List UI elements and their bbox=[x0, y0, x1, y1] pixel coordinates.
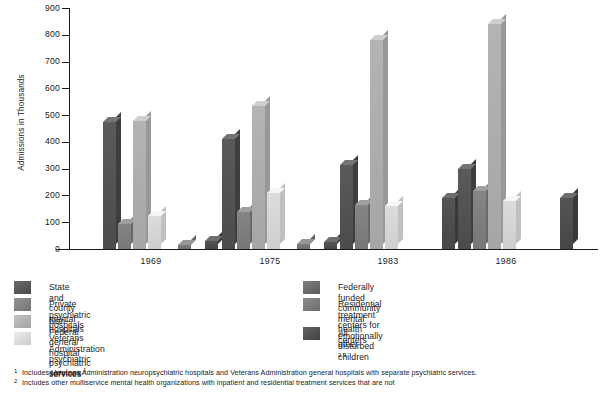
bar bbox=[458, 169, 471, 249]
y-axis-tick-mark bbox=[62, 142, 69, 143]
footnote-marker: 1 bbox=[14, 367, 17, 376]
footnote-marker: 2 bbox=[14, 377, 17, 386]
bar bbox=[340, 165, 353, 249]
legend-swatch bbox=[14, 332, 31, 345]
bar bbox=[133, 121, 146, 249]
legend-swatch bbox=[303, 298, 320, 311]
footnote-text: Includes other multiservice mental healt… bbox=[22, 378, 395, 387]
bar-face bbox=[148, 216, 161, 249]
legend-footnote-marker: 2,3 bbox=[338, 352, 346, 358]
bar bbox=[503, 201, 516, 249]
bar bbox=[252, 106, 265, 249]
bar-face bbox=[458, 169, 471, 249]
bar bbox=[560, 198, 573, 249]
legend-label: All other 2,3 bbox=[338, 327, 358, 363]
bar bbox=[103, 122, 116, 249]
y-axis-tick-label: 800 bbox=[26, 30, 60, 39]
bar-group bbox=[458, 0, 575, 278]
y-axis-tick-mark bbox=[62, 35, 69, 36]
y-axis-tick-label: 400 bbox=[26, 137, 60, 146]
bar-face bbox=[385, 206, 398, 249]
y-axis-tick-label: 600 bbox=[26, 84, 60, 93]
bar bbox=[355, 205, 368, 249]
bar bbox=[267, 193, 280, 249]
bar bbox=[118, 224, 131, 249]
legend-swatch bbox=[14, 315, 31, 328]
y-axis-tick-label: 700 bbox=[26, 57, 60, 66]
bar-face bbox=[222, 139, 235, 249]
y-axis-tick-label: 100 bbox=[26, 218, 60, 227]
y-axis-tick-mark bbox=[62, 88, 69, 89]
y-axis-tick-mark bbox=[62, 195, 69, 196]
x-axis-label-1986: 1986 bbox=[476, 256, 536, 266]
bar bbox=[297, 244, 310, 249]
bar-face bbox=[560, 198, 573, 249]
bar bbox=[222, 139, 235, 249]
y-axis-tick-label: 900 bbox=[26, 4, 60, 13]
y-axis-tick-label: 200 bbox=[26, 191, 60, 200]
bar bbox=[205, 241, 218, 249]
bar-face bbox=[355, 205, 368, 249]
footnote: 2Includes other multiservice mental heal… bbox=[14, 378, 592, 387]
bar-face bbox=[370, 40, 383, 249]
bar bbox=[385, 206, 398, 249]
bar-group bbox=[340, 0, 457, 278]
legend-swatch bbox=[14, 298, 31, 311]
legend-item: All other 2,3 bbox=[303, 327, 358, 363]
x-axis-label-1969: 1969 bbox=[121, 256, 181, 266]
bar-top-face bbox=[297, 239, 315, 244]
y-axis-tick-label: 300 bbox=[26, 164, 60, 173]
legend-swatch bbox=[303, 327, 320, 340]
bar bbox=[370, 40, 383, 249]
bar-face bbox=[473, 191, 486, 249]
bar-chart: Admissions in Thousands 9008007006005004… bbox=[0, 0, 604, 278]
bar-face bbox=[340, 165, 353, 249]
chart-legend: State and county mental hospitalsPrivate… bbox=[0, 281, 604, 353]
bar bbox=[237, 212, 250, 249]
bar-face bbox=[252, 106, 265, 249]
y-axis-tick-mark bbox=[62, 115, 69, 116]
bar-group bbox=[222, 0, 339, 278]
y-axis-tick-mark bbox=[62, 62, 69, 63]
bar bbox=[488, 24, 501, 249]
footnote: 1Includes Veterans Administration neurop… bbox=[14, 368, 592, 377]
bar-face bbox=[297, 244, 310, 249]
bar-face bbox=[237, 212, 250, 249]
bar-face bbox=[324, 242, 337, 249]
legend-swatch bbox=[303, 281, 320, 294]
y-axis-tick-mark bbox=[62, 222, 69, 223]
bar bbox=[324, 242, 337, 249]
bar bbox=[473, 191, 486, 249]
bar bbox=[178, 245, 191, 249]
bar-top-face bbox=[178, 240, 196, 245]
y-axis-tick-mark bbox=[62, 169, 69, 170]
x-axis-label-1983: 1983 bbox=[358, 256, 418, 266]
y-axis-line bbox=[69, 8, 70, 250]
bar-face bbox=[488, 24, 501, 249]
legend-swatch bbox=[14, 281, 31, 294]
y-axis-tick-mark bbox=[62, 8, 69, 9]
bar bbox=[442, 198, 455, 249]
bar-face bbox=[503, 201, 516, 249]
bar-face bbox=[103, 122, 116, 249]
footnotes-block: 1Includes Veterans Administration neurop… bbox=[14, 368, 592, 388]
bar bbox=[148, 216, 161, 249]
y-axis-tick-label: 0 bbox=[26, 245, 60, 254]
bar-face bbox=[267, 193, 280, 249]
footnote-text: Includes Veterans Administration neurops… bbox=[22, 368, 477, 377]
bar-face bbox=[178, 245, 191, 249]
y-axis-tick-label: 500 bbox=[26, 111, 60, 120]
bar-face bbox=[442, 198, 455, 249]
x-axis-label-1975: 1975 bbox=[240, 256, 300, 266]
bar-face bbox=[205, 241, 218, 249]
bar-group bbox=[103, 0, 220, 278]
bar-face bbox=[118, 224, 131, 249]
y-axis-tick-labels: 9008007006005004003002001000 bbox=[22, 0, 60, 278]
bar-face bbox=[133, 121, 146, 249]
